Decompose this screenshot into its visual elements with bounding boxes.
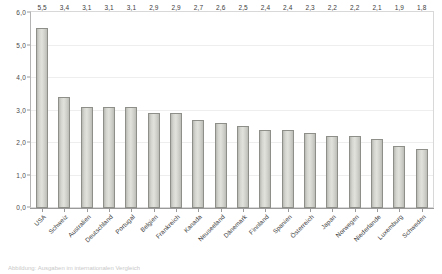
x-tick-mark — [198, 208, 199, 212]
x-tick-mark — [109, 208, 110, 212]
x-tick-slot — [321, 208, 343, 212]
x-tick-mark — [399, 208, 400, 212]
x-label-slot: Schweiz — [53, 213, 75, 271]
x-tick-slot — [53, 208, 75, 212]
y-tick-mark — [27, 77, 30, 78]
x-tick-slot — [254, 208, 276, 212]
x-label-slot: Belgien — [143, 213, 165, 271]
x-label-slot: Spanien — [277, 213, 299, 271]
x-tick-slot — [120, 208, 142, 212]
bar[interactable]: 2,1 — [371, 139, 383, 208]
bar-slot: 3,4 — [53, 12, 75, 208]
bar-value-label: 2,3 — [305, 4, 314, 11]
x-label-slot: Dänemark — [232, 213, 254, 271]
bar-slot: 2,1 — [366, 12, 388, 208]
x-tick-slot — [299, 208, 321, 212]
bar-slot: 2,2 — [344, 12, 366, 208]
bar[interactable]: 2,5 — [237, 126, 249, 208]
x-label-slot: Neuseeland — [210, 213, 232, 271]
x-tick-mark — [288, 208, 289, 212]
bar-value-label: 1,8 — [417, 4, 426, 11]
x-axis-category-label: Japan — [320, 213, 337, 230]
x-label-slot: Österreich — [299, 213, 321, 271]
bar[interactable]: 2,3 — [304, 133, 316, 208]
x-label-slot: USA — [31, 213, 53, 271]
x-tick-mark — [355, 208, 356, 212]
bar-slot: 2,7 — [187, 12, 209, 208]
x-tick-slot — [388, 208, 410, 212]
x-tick-slot — [165, 208, 187, 212]
x-axis-ticks — [31, 208, 433, 212]
bar[interactable]: 2,9 — [170, 113, 182, 208]
bar-value-label: 2,9 — [149, 4, 158, 11]
x-label-slot: Luxemburg — [388, 213, 410, 271]
y-tick-mark — [27, 142, 30, 143]
bar[interactable]: 2,7 — [192, 120, 204, 208]
x-tick-mark — [310, 208, 311, 212]
bar-slot: 2,3 — [299, 12, 321, 208]
bar-chart: 0,01,02,03,04,05,06,0 5,53,43,13,13,12,9… — [0, 0, 442, 274]
bar-value-label: 3,1 — [104, 4, 113, 11]
x-label-slot: Frankreich — [165, 213, 187, 271]
bar-slot: 2,4 — [277, 12, 299, 208]
bar-value-label: 5,5 — [37, 4, 46, 11]
bar-value-label: 2,7 — [194, 4, 203, 11]
bar[interactable]: 3,1 — [103, 107, 115, 208]
bar[interactable]: 3,1 — [125, 107, 137, 208]
bar-slot: 1,8 — [411, 12, 433, 208]
bar-value-label: 3,1 — [127, 4, 136, 11]
x-tick-slot — [98, 208, 120, 212]
bar[interactable]: 3,1 — [81, 107, 93, 208]
y-tick-mark — [27, 109, 30, 110]
bar-slot: 2,4 — [254, 12, 276, 208]
x-label-slot: Deutschland — [98, 213, 120, 271]
y-axis-tick-label: 4,0 — [16, 74, 26, 81]
bar[interactable]: 1,8 — [416, 149, 428, 208]
bar[interactable]: 5,5 — [36, 28, 48, 208]
x-tick-mark — [221, 208, 222, 212]
bar[interactable]: 3,4 — [58, 97, 70, 208]
x-tick-slot — [76, 208, 98, 212]
bar-slot: 2,5 — [232, 12, 254, 208]
bar-value-label: 3,4 — [60, 4, 69, 11]
x-tick-slot — [232, 208, 254, 212]
bar[interactable]: 2,4 — [259, 130, 271, 208]
bar[interactable]: 2,6 — [215, 123, 227, 208]
bar-slot: 3,1 — [76, 12, 98, 208]
x-tick-mark — [131, 208, 132, 212]
bar-slot: 2,9 — [143, 12, 165, 208]
y-axis-tick-label: 6,0 — [16, 9, 26, 16]
y-axis: 0,01,02,03,04,05,06,0 — [0, 11, 30, 208]
y-tick-mark — [27, 12, 30, 13]
x-tick-slot — [143, 208, 165, 212]
x-tick-mark — [377, 208, 378, 212]
bar-value-label: 3,1 — [82, 4, 91, 11]
bar-value-label: 2,1 — [372, 4, 381, 11]
bar-slot: 2,6 — [210, 12, 232, 208]
y-tick-mark — [27, 174, 30, 175]
bar-slot: 2,9 — [165, 12, 187, 208]
bar-value-label: 2,9 — [171, 4, 180, 11]
x-axis-category-label: USA — [33, 213, 47, 227]
bar-value-label: 2,2 — [328, 4, 337, 11]
bar[interactable]: 2,4 — [282, 130, 294, 208]
x-tick-mark — [265, 208, 266, 212]
y-axis-tick-label: 2,0 — [16, 139, 26, 146]
x-tick-mark — [332, 208, 333, 212]
bars-container: 5,53,43,13,13,12,92,92,72,62,52,42,42,32… — [31, 12, 433, 208]
bar[interactable]: 2,2 — [326, 136, 338, 208]
bar-slot: 1,9 — [388, 12, 410, 208]
x-tick-slot — [31, 208, 53, 212]
bar[interactable]: 1,9 — [393, 146, 405, 208]
bar[interactable]: 2,2 — [349, 136, 361, 208]
x-label-slot: Schweden — [411, 213, 433, 271]
bar[interactable]: 2,9 — [148, 113, 160, 208]
bar-slot: 5,5 — [31, 12, 53, 208]
x-tick-mark — [87, 208, 88, 212]
x-label-slot: Niederlande — [366, 213, 388, 271]
x-axis-labels: USASchweizAustralienDeutschlandPortugalB… — [31, 213, 433, 271]
x-tick-slot — [277, 208, 299, 212]
bar-value-label: 2,4 — [261, 4, 270, 11]
y-axis-tick-label: 1,0 — [16, 171, 26, 178]
bar-slot: 3,1 — [120, 12, 142, 208]
